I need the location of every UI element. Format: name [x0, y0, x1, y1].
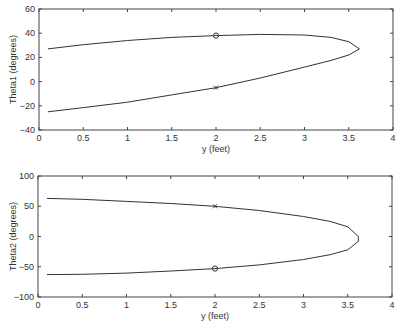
data-line [48, 49, 360, 112]
x-tick-label: 1.5 [164, 300, 177, 310]
x-tick-label: 3 [302, 133, 307, 143]
x-tick-label: 3 [301, 300, 306, 310]
y-tick-label: 0 [29, 232, 34, 242]
y-tick-label: 50 [24, 201, 34, 211]
y-tick-label: −100 [14, 292, 34, 302]
y-tick-label: 100 [19, 171, 34, 181]
x-tick-label: 2 [213, 133, 218, 143]
x-tick-label: 1 [124, 300, 129, 310]
y-tick-label: 40 [25, 28, 35, 38]
y-tick-label: 60 [25, 4, 35, 14]
x-tick-label: 0 [35, 300, 40, 310]
axes-frame [39, 9, 393, 130]
x-tick-label: 3.5 [341, 300, 354, 310]
axes-frame [38, 176, 392, 297]
x-tick-label: 2 [212, 300, 217, 310]
data-line [48, 34, 360, 49]
y-tick-label: 20 [25, 52, 35, 62]
subplot-1: 00.511.522.533.546040200−20−40y (feet)Th… [8, 4, 396, 154]
x-tick-label: 1 [125, 133, 130, 143]
figure: 00.511.522.533.546040200−20−40y (feet)Th… [0, 0, 403, 330]
x-tick-label: 1.5 [165, 133, 178, 143]
x-axis-label: y (feet) [202, 144, 230, 154]
subplot-2: 00.511.522.533.54100500−50−100y (feet)Th… [8, 171, 395, 321]
x-tick-label: 4 [389, 300, 394, 310]
y-tick-label: −20 [20, 101, 35, 111]
x-tick-label: 2.5 [254, 133, 267, 143]
y-tick-label: −50 [19, 262, 34, 272]
x-tick-label: 0.5 [76, 300, 89, 310]
x-tick-label: 0.5 [77, 133, 90, 143]
y-axis-label: Theta1 (degrees) [8, 35, 18, 104]
x-tick-label: 2.5 [253, 300, 266, 310]
y-axis-label: Theta2 (degrees) [8, 202, 18, 271]
data-line [47, 198, 359, 236]
x-tick-label: 0 [36, 133, 41, 143]
x-tick-label: 4 [390, 133, 395, 143]
y-tick-label: −40 [20, 125, 35, 135]
data-line [47, 241, 359, 274]
y-tick-label: 0 [30, 77, 35, 87]
x-tick-label: 3.5 [342, 133, 355, 143]
x-axis-label: y (feet) [201, 311, 229, 321]
